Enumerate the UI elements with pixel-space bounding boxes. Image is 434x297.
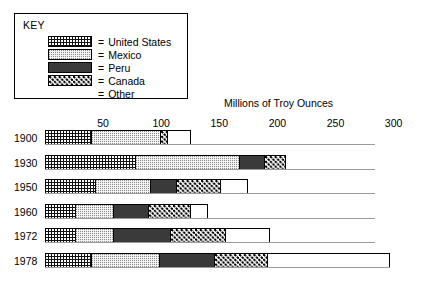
bar-segment-1900-united-states[interactable] <box>45 130 92 145</box>
bar-segment-1930-mexico[interactable] <box>135 155 240 170</box>
year-label-1930: 1930 <box>14 157 42 169</box>
x-tick-label-150: 150 <box>211 117 229 129</box>
legend-item-mexico: = Mexico <box>48 48 186 61</box>
bar-segment-1978-united-states[interactable] <box>45 253 92 268</box>
bar-segment-1978-mexico[interactable] <box>91 253 159 268</box>
legend-equals-sign: = <box>98 62 104 74</box>
bar-segment-1950-united-states[interactable] <box>45 179 96 194</box>
key-legend-box: KEY = United States = Mexico = Peru = Ca… <box>14 13 188 99</box>
legend-equals-sign: = <box>98 88 104 100</box>
stacked-bar-1978[interactable] <box>45 253 390 268</box>
legend-equals-sign: = <box>98 75 104 87</box>
stacked-bar-1972[interactable] <box>45 228 270 243</box>
bar-segment-1978-other[interactable] <box>267 253 390 268</box>
peru-swatch-icon <box>48 62 92 73</box>
stacked-bar-1900[interactable] <box>45 130 191 145</box>
bar-segment-1930-canada[interactable] <box>264 155 286 170</box>
year-label-1978: 1978 <box>14 255 42 267</box>
x-tick-label-200: 200 <box>269 117 287 129</box>
x-tick-label-100: 100 <box>152 117 170 129</box>
bar-segment-1978-peru[interactable] <box>159 253 216 268</box>
legend-label-canada: Canada <box>108 75 145 87</box>
x-tick-label-300: 300 <box>385 117 403 129</box>
bar-segment-1972-peru[interactable] <box>113 228 171 243</box>
bar-segment-1900-mexico[interactable] <box>91 130 161 145</box>
year-label-1972: 1972 <box>14 230 42 242</box>
bar-row-1900: 1900 <box>0 130 434 145</box>
bar-segment-1950-canada[interactable] <box>176 179 221 194</box>
bar-segment-1978-canada[interactable] <box>214 253 268 268</box>
legend-label-peru: Peru <box>108 62 130 74</box>
legend-equals-sign: = <box>98 49 104 61</box>
row-baseline <box>45 144 375 145</box>
stacked-bar-chart-plot: 190019301950196019721978 <box>0 130 434 280</box>
bar-segment-1960-other[interactable] <box>190 204 207 219</box>
x-axis-tick-labels: 50100150200250300 <box>0 117 434 130</box>
bar-segment-1972-mexico[interactable] <box>75 228 114 243</box>
canada-swatch-icon <box>48 75 92 86</box>
legend-item-other: = Other <box>48 87 186 100</box>
bar-row-1978: 1978 <box>0 253 434 268</box>
stacked-bar-1950[interactable] <box>45 179 248 194</box>
mexico-swatch-icon <box>48 49 92 60</box>
x-axis-title: Millions of Troy Ounces <box>224 97 333 109</box>
row-baseline <box>45 267 390 268</box>
x-tick-label-250: 250 <box>327 117 345 129</box>
bar-segment-1960-peru[interactable] <box>113 204 149 219</box>
bar-segment-1972-canada[interactable] <box>170 228 227 243</box>
bar-segment-1960-canada[interactable] <box>148 204 192 219</box>
legend-item-peru: = Peru <box>48 61 186 74</box>
year-label-1900: 1900 <box>14 132 42 144</box>
row-baseline <box>45 169 375 170</box>
bar-segment-1930-peru[interactable] <box>239 155 264 170</box>
key-title: KEY <box>23 19 45 31</box>
legend-item-united-states: = United States <box>48 35 186 48</box>
x-tick-label-50: 50 <box>97 117 109 129</box>
year-label-1960: 1960 <box>14 206 42 218</box>
bar-segment-1900-other[interactable] <box>167 130 191 145</box>
legend-label-other: Other <box>108 88 134 100</box>
bar-segment-1960-mexico[interactable] <box>75 204 114 219</box>
bar-row-1930: 1930 <box>0 155 434 170</box>
legend-label-united-states: United States <box>108 36 171 48</box>
row-baseline <box>45 218 375 219</box>
bar-segment-1972-other[interactable] <box>225 228 270 243</box>
legend-item-canada: = Canada <box>48 74 186 87</box>
row-baseline <box>45 193 375 194</box>
bar-segment-1930-united-states[interactable] <box>45 155 136 170</box>
row-baseline <box>45 242 375 243</box>
legend-label-mexico: Mexico <box>108 49 141 61</box>
bar-row-1960: 1960 <box>0 204 434 219</box>
legend-equals-sign: = <box>98 36 104 48</box>
us-swatch-icon <box>48 36 92 47</box>
bar-row-1950: 1950 <box>0 179 434 194</box>
bar-segment-1950-mexico[interactable] <box>95 179 152 194</box>
bar-segment-1960-united-states[interactable] <box>45 204 76 219</box>
stacked-bar-1960[interactable] <box>45 204 208 219</box>
bar-segment-1950-other[interactable] <box>220 179 249 194</box>
key-row-list: = United States = Mexico = Peru = Canada… <box>48 35 186 100</box>
bar-segment-1972-united-states[interactable] <box>45 228 76 243</box>
other-swatch-icon <box>48 88 92 99</box>
year-label-1950: 1950 <box>14 181 42 193</box>
bar-row-1972: 1972 <box>0 228 434 243</box>
stacked-bar-1930[interactable] <box>45 155 286 170</box>
bar-segment-1950-peru[interactable] <box>150 179 176 194</box>
